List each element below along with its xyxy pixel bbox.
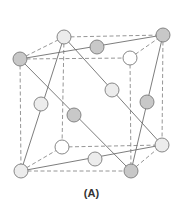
dashed-edge: [64, 35, 163, 37]
dashed-edge: [130, 58, 131, 171]
atom-bottom-left-back: [55, 140, 69, 154]
atom-left-mid: [34, 97, 48, 111]
atom-top-left-back: [57, 30, 71, 44]
atom-bottom-left-front: [14, 164, 28, 178]
dashed-edge: [62, 145, 162, 147]
atom-right-mid: [140, 95, 154, 109]
atom-top-right-back: [156, 28, 170, 42]
crystal-structure-diagram: [0, 0, 183, 207]
atom-top-left-front: [13, 52, 27, 66]
dashed-edge: [20, 59, 21, 171]
dashed-edge: [20, 58, 130, 59]
dashed-edge: [62, 37, 64, 147]
atom-bottom-right-front: [124, 164, 138, 178]
figure-caption: (A): [0, 187, 183, 199]
atom-bottom-edge-mid: [88, 152, 102, 166]
atom-body-center: [67, 108, 81, 122]
dashed-edge: [162, 35, 163, 145]
atom-top-edge-mid: [90, 40, 104, 54]
atom-bottom-right-back: [155, 138, 169, 152]
atom-top-right-front: [123, 51, 137, 65]
atom-upper-center-right: [105, 83, 119, 97]
atoms: [13, 28, 170, 178]
